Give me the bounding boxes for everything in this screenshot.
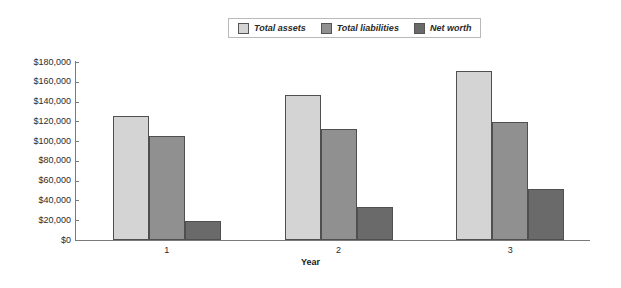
x-axis-title: Year — [0, 258, 621, 267]
y-axis-tick-mark — [75, 102, 79, 103]
y-axis-tick-label: $160,000 — [33, 77, 75, 86]
x-axis-tick-label: 1 — [113, 246, 221, 255]
y-axis-tick-label: $100,000 — [33, 137, 75, 146]
y-axis-tick-label: $120,000 — [33, 117, 75, 126]
legend-label-total-assets: Total assets — [254, 24, 306, 33]
legend-label-net-worth: Net worth — [430, 24, 472, 33]
y-axis-tick-label: $40,000 — [38, 196, 75, 205]
bar — [185, 221, 221, 240]
y-axis-tick-label: $180,000 — [33, 58, 75, 67]
y-axis-tick-label: $140,000 — [33, 97, 75, 106]
y-axis-tick-mark — [75, 121, 79, 122]
bar — [456, 71, 492, 240]
bar — [357, 207, 393, 240]
x-axis-tick-label: 2 — [285, 246, 393, 255]
y-axis-tick-mark — [75, 141, 79, 142]
y-axis-tick-mark — [75, 161, 79, 162]
legend-swatch-net-worth — [414, 23, 425, 34]
y-axis-tick-mark — [75, 62, 79, 63]
legend-swatch-total-liabilities — [321, 23, 332, 34]
chart-legend: Total assets Total liabilities Net worth — [228, 18, 481, 38]
x-axis-line — [75, 240, 590, 241]
x-axis-tick-label: 3 — [456, 246, 564, 255]
legend-label-total-liabilities: Total liabilities — [337, 24, 399, 33]
legend-entry-net-worth: Net worth — [414, 23, 472, 34]
y-axis-tick-mark — [75, 181, 79, 182]
bar — [528, 189, 564, 240]
plot-area: $0$20,000$40,000$60,000$80,000$100,000$1… — [75, 62, 590, 240]
y-axis-tick-label: $0 — [61, 236, 75, 245]
bar-group — [285, 62, 393, 240]
bar — [113, 116, 149, 240]
y-axis-tick-mark — [75, 82, 79, 83]
y-axis-tick-mark — [75, 240, 79, 241]
bar — [285, 95, 321, 240]
legend-entry-total-assets: Total assets — [238, 23, 306, 34]
bar-group — [113, 62, 221, 240]
legend-entry-total-liabilities: Total liabilities — [321, 23, 399, 34]
bar — [321, 129, 357, 240]
bar-group — [456, 62, 564, 240]
y-axis-tick-mark — [75, 200, 79, 201]
legend-swatch-total-assets — [238, 23, 249, 34]
y-axis-tick-label: $20,000 — [38, 216, 75, 225]
y-axis-tick-mark — [75, 220, 79, 221]
bar — [149, 136, 185, 240]
y-axis-tick-label: $60,000 — [38, 176, 75, 185]
bar-chart: Total assets Total liabilities Net worth… — [0, 0, 621, 288]
y-axis-tick-label: $80,000 — [38, 156, 75, 165]
bar — [492, 122, 528, 240]
y-axis-line — [75, 61, 76, 241]
